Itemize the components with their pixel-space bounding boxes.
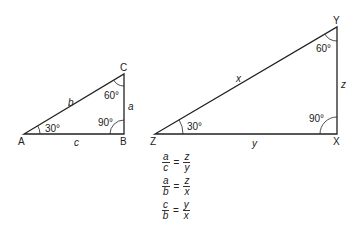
eq2-den-right: x <box>184 187 189 197</box>
side-a-label: a <box>128 101 134 112</box>
side-b-label: b <box>68 97 74 108</box>
equation-2: ab = zx <box>162 176 190 197</box>
eq1-den-left: c <box>163 163 168 173</box>
vertex-z-label: Z <box>150 136 156 147</box>
angle-y-label: 60° <box>316 43 331 54</box>
angle-z-label: 30° <box>187 121 202 132</box>
eq2-den-left: b <box>163 187 169 197</box>
angle-arc-c <box>114 80 124 86</box>
angle-a-label: 30° <box>45 123 60 134</box>
angle-arc-y <box>325 34 337 41</box>
angle-b-label: 90° <box>98 117 113 128</box>
eq3-den-left: b <box>163 211 169 221</box>
triangle-abc: A B C b a c 30° 90° 60° <box>18 62 134 148</box>
eq1-equals: = <box>174 157 180 168</box>
vertex-a-label: A <box>18 136 25 147</box>
angle-arc-z <box>179 120 183 134</box>
side-z-label: z <box>340 79 346 90</box>
angle-arc-a <box>38 126 40 134</box>
eq2-equals: = <box>174 181 180 192</box>
triangle-zxy: Z X Y x y z 30° 90° 60° <box>150 15 346 149</box>
eq3-den-right: x <box>184 211 189 221</box>
side-x-label: x <box>235 73 242 84</box>
side-c-label: c <box>74 137 79 148</box>
vertex-x-label: X <box>333 136 340 147</box>
equation-1: ac = zy <box>162 152 190 173</box>
angle-c-label: 60° <box>104 90 119 101</box>
side-y-label: y <box>251 138 258 149</box>
eq1-den-right: y <box>184 163 189 173</box>
vertex-c-label: C <box>120 62 127 73</box>
equation-3: cb = yx <box>162 200 190 221</box>
angle-x-label: 90° <box>309 113 324 124</box>
vertex-b-label: B <box>120 136 127 147</box>
eq3-equals: = <box>173 205 179 216</box>
vertex-y-label: Y <box>333 15 340 26</box>
